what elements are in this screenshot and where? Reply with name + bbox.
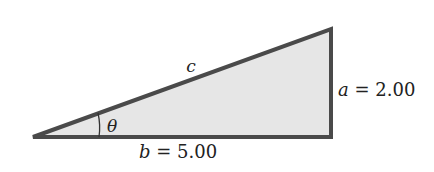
hypotenuse-label: c [186, 56, 196, 76]
side-b-label: b = 5.00 [139, 141, 217, 162]
side-b-value: = 5.00 [156, 141, 217, 162]
side-a-value: = 2.00 [354, 79, 415, 100]
side-a-label: a = 2.00 [338, 79, 415, 100]
right-triangle [33, 29, 331, 137]
triangle-diagram: c θ a = 2.00 b = 5.00 [0, 0, 434, 172]
side-a-variable: a [338, 79, 349, 100]
side-b-variable: b [139, 141, 151, 162]
angle-label: θ [107, 116, 117, 136]
